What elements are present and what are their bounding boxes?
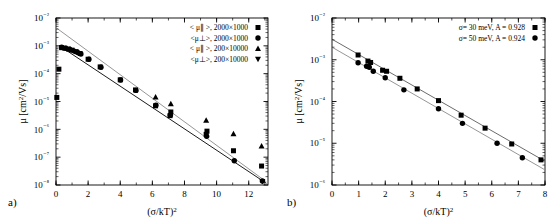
legend-entry-3: <μ⊥>, 200×10000 xyxy=(191,55,249,64)
x-tick-label: 2 xyxy=(86,189,91,199)
x-tick-label: 7 xyxy=(516,189,521,199)
y-tick-label: 10⁻⁶ xyxy=(310,179,325,190)
y-tick-label: 10⁻⁴ xyxy=(34,68,50,79)
y-tick-label: 10⁻⁴ xyxy=(310,96,326,107)
data-point-circle xyxy=(494,141,499,146)
panel-a: 02468101210⁻²10⁻³10⁻⁴10⁻⁵10⁻⁶10⁻⁷10⁻⁸(σ/… xyxy=(0,0,279,220)
y-axis-label: μ [cm2/Vs] xyxy=(293,79,305,123)
y-tick-label: 10⁻² xyxy=(34,12,49,23)
data-point-circle xyxy=(86,57,91,62)
legend-entry-2: < μ∥ >, 200×10000 xyxy=(190,44,248,53)
data-point-circle xyxy=(383,75,388,80)
data-point-circle xyxy=(153,103,158,108)
data-point-square xyxy=(397,76,402,81)
data-point-circle xyxy=(232,158,237,163)
panel-a-plot: 02468101210⁻²10⁻³10⁻⁴10⁻⁵10⁻⁶10⁻⁷10⁻⁸(σ/… xyxy=(0,0,279,220)
x-tick-label: 3 xyxy=(410,189,415,199)
y-tick-label: 10⁻⁵ xyxy=(310,137,325,148)
y-tick-label: 10⁻³ xyxy=(34,40,49,51)
panel-a-label: a) xyxy=(8,196,17,208)
y-tick-label: 10⁻⁵ xyxy=(34,96,49,107)
data-point-square xyxy=(533,25,538,30)
data-point-circle xyxy=(436,106,441,111)
x-axis-label: (σ/kT)2 xyxy=(424,206,454,219)
data-point-square xyxy=(204,129,209,134)
y-tick-label: 10⁻² xyxy=(310,12,325,23)
data-point-square xyxy=(54,95,59,100)
x-tick-label: 6 xyxy=(490,189,495,199)
y-axis-label: μ [cm2/Vs] xyxy=(17,79,29,123)
x-tick-label: 10 xyxy=(212,189,222,199)
data-point-circle xyxy=(118,77,123,82)
x-tick-label: 12 xyxy=(244,189,253,199)
x-tick-label: 0 xyxy=(54,189,59,199)
legend-entry-1: σ= 50 meV, A = 0.924 xyxy=(459,34,526,43)
y-tick-label: 10⁻⁶ xyxy=(34,123,49,134)
data-point-square xyxy=(256,25,261,30)
data-point-circle xyxy=(78,51,83,56)
data-point-square xyxy=(459,113,464,118)
data-point-circle xyxy=(255,35,260,40)
data-point-square xyxy=(509,141,514,146)
data-point-circle xyxy=(98,65,103,70)
data-point-circle xyxy=(133,88,138,93)
data-point-square xyxy=(356,52,361,57)
x-tick-label: 6 xyxy=(150,189,155,199)
x-axis-label: (σ/kT)2 xyxy=(147,206,177,219)
data-point-square xyxy=(56,67,61,72)
data-point-square xyxy=(415,86,420,91)
x-tick-label: 2 xyxy=(383,189,388,199)
x-tick-label: 8 xyxy=(182,189,187,199)
y-tick-label: 10⁻⁸ xyxy=(34,179,50,190)
figure-container: 02468101210⁻²10⁻³10⁻⁴10⁻⁵10⁻⁶10⁻⁷10⁻⁸(σ/… xyxy=(0,0,558,220)
data-point-circle xyxy=(401,87,406,92)
x-tick-label: 0 xyxy=(330,189,335,199)
data-point-square xyxy=(384,69,389,74)
data-point-square xyxy=(539,157,544,162)
y-tick-label: 10⁻⁷ xyxy=(34,151,49,162)
legend-entry-0: < μ∥ >, 2000×1000 xyxy=(190,23,248,32)
x-tick-label: 4 xyxy=(436,189,441,199)
data-point-circle xyxy=(460,121,465,126)
x-tick-label: 4 xyxy=(118,189,123,199)
data-point-circle xyxy=(204,134,209,139)
x-tick-label: 1 xyxy=(356,189,361,199)
panel-b: 01234567810⁻²10⁻³10⁻⁴10⁻⁵10⁻⁶(σ/kT)2μ [c… xyxy=(279,0,558,220)
data-point-circle xyxy=(168,113,173,118)
data-point-circle xyxy=(371,69,376,74)
x-tick-label: 5 xyxy=(463,189,468,199)
data-point-square xyxy=(259,164,264,169)
panel-b-plot: 01234567810⁻²10⁻³10⁻⁴10⁻⁵10⁻⁶(σ/kT)2μ [c… xyxy=(279,0,558,220)
legend-entry-1: <μ⊥>, 2000×1000 xyxy=(191,34,249,43)
panel-b-label: b) xyxy=(287,196,296,208)
data-point-square xyxy=(436,98,441,103)
data-point-square xyxy=(231,148,236,153)
data-point-square xyxy=(483,126,488,131)
x-tick-label: 8 xyxy=(543,189,548,199)
y-tick-label: 10⁻³ xyxy=(310,54,325,65)
data-point-circle xyxy=(532,35,537,40)
data-point-circle xyxy=(367,65,372,70)
data-point-square xyxy=(368,60,373,65)
legend-entry-0: σ= 30 meV, A = 0.928 xyxy=(459,23,526,32)
data-point-circle xyxy=(520,155,525,160)
data-point-circle xyxy=(355,60,360,65)
